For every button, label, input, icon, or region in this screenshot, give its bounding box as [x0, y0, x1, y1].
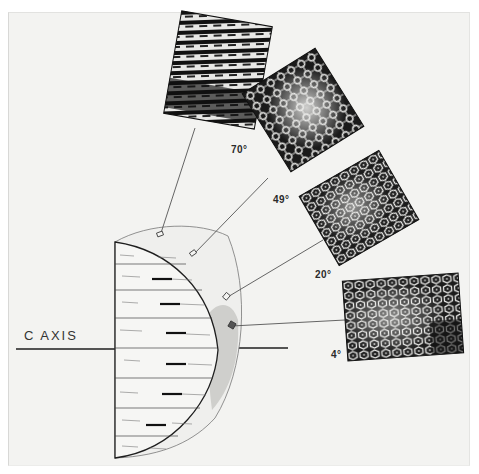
angle-label-20: 20° — [315, 269, 332, 280]
micrograph-4 — [342, 273, 463, 361]
angle-label-49: 49° — [273, 194, 290, 205]
micrograph-20 — [299, 150, 419, 265]
angle-label-4: 4° — [331, 349, 342, 360]
c-axis-label: C AXIS — [24, 328, 78, 343]
crystal-hemisphere-diagram — [0, 0, 479, 474]
angle-label-70: 70° — [231, 144, 248, 155]
